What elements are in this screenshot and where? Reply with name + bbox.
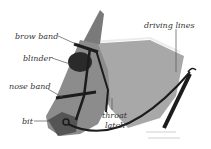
label-blinder: blinder [23,54,52,63]
bridle-diagram: brow band blinder nose band bit throat l… [0,0,211,149]
label-throat: throat [102,111,127,120]
label-bit: bit [22,117,33,126]
label-nose-band: nose band [9,82,51,91]
label-latch: latch [105,121,125,130]
label-brow-band: brow band [15,32,58,41]
horse-ear [82,10,104,44]
label-driving-lines: driving lines [144,21,195,30]
